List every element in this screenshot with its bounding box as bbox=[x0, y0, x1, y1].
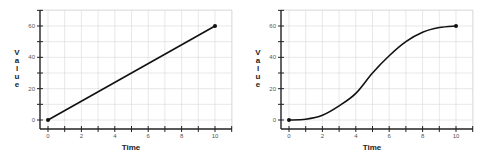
x-axis-title: Time bbox=[363, 143, 382, 152]
x-tick-label: 4 bbox=[113, 133, 117, 139]
y-axis-title-char: e bbox=[256, 80, 261, 89]
x-tick-label: 0 bbox=[46, 133, 50, 139]
chart-sigmoid-svg: 0 2 4 6 8 10 0 20 40 60 Time V a l u e bbox=[241, 0, 485, 154]
y-tick-label: 60 bbox=[28, 23, 35, 29]
x-tick-label: 10 bbox=[453, 133, 460, 139]
x-tick-label: 2 bbox=[80, 133, 84, 139]
x-tick-label: 0 bbox=[287, 133, 291, 139]
y-tick-label: 60 bbox=[269, 23, 276, 29]
chart-sigmoid: 0 2 4 6 8 10 0 20 40 60 Time V a l u e bbox=[241, 0, 483, 154]
y-axis-title: V a l u e bbox=[255, 48, 261, 89]
x-tick-label: 10 bbox=[212, 133, 219, 139]
y-tick-label: 0 bbox=[32, 117, 36, 123]
x-tick-label: 6 bbox=[388, 133, 392, 139]
grid-lines bbox=[40, 10, 232, 129]
grid-lines bbox=[281, 10, 473, 129]
y-axis-title-char: e bbox=[15, 80, 20, 89]
endpoint-marker bbox=[287, 118, 291, 122]
y-axis-title: V a l u e bbox=[14, 48, 20, 89]
y-tick-label: 40 bbox=[269, 54, 276, 60]
y-tick-label: 40 bbox=[28, 54, 35, 60]
x-tick-label: 2 bbox=[321, 133, 325, 139]
chart-linear: 0 2 4 6 8 10 0 20 40 60 Time V a l u e bbox=[0, 0, 242, 154]
axes bbox=[278, 10, 473, 132]
x-tick-label: 8 bbox=[180, 133, 184, 139]
y-tick-label: 20 bbox=[269, 86, 276, 92]
endpoint-marker bbox=[46, 118, 50, 122]
y-tick-label: 0 bbox=[273, 117, 277, 123]
chart-linear-svg: 0 2 4 6 8 10 0 20 40 60 Time V a l u e bbox=[0, 0, 242, 154]
x-tick-label: 6 bbox=[147, 133, 151, 139]
endpoint-marker bbox=[213, 24, 217, 28]
x-tick-label: 4 bbox=[354, 133, 358, 139]
endpoint-marker bbox=[454, 24, 458, 28]
y-tick-label: 20 bbox=[28, 86, 35, 92]
x-tick-label: 8 bbox=[421, 133, 425, 139]
x-axis-title: Time bbox=[122, 143, 141, 152]
tick-labels: 0 2 4 6 8 10 0 20 40 60 bbox=[269, 23, 460, 139]
